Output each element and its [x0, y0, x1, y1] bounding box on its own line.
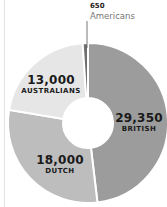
label-dutch: 18,000 DUTCH — [35, 154, 85, 175]
donut-chart — [0, 0, 167, 207]
label-australians: 13,000 AUSTRALIANS — [18, 74, 84, 95]
label-british: 29,350 BRITISH — [112, 112, 166, 133]
label-americans-value: 650 — [90, 2, 105, 10]
label-americans-name: Americans — [90, 11, 135, 21]
